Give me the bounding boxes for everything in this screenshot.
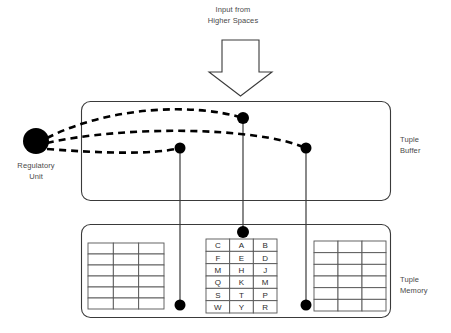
table-cell-text: Q (215, 278, 221, 287)
table-cell (139, 276, 164, 287)
table-cell-text: F (215, 254, 220, 263)
table-cell (338, 241, 362, 253)
table-cell (362, 288, 386, 300)
table-cell (88, 298, 113, 309)
table-cell-text: M (214, 266, 221, 275)
buffer-node-right[interactable] (301, 143, 312, 154)
table-cell (314, 288, 338, 300)
table-cell (338, 276, 362, 288)
table-cell (113, 265, 138, 276)
table-cell-text: D (262, 254, 268, 263)
memory-node-center[interactable] (237, 226, 249, 238)
table-cell (88, 287, 113, 298)
table-cell (113, 298, 138, 309)
table-cell (362, 276, 386, 288)
table-cell-text: R (262, 303, 268, 312)
regulatory-unit-label: Regulatory Unit (0, 160, 72, 182)
table-cell-text: Y (239, 303, 245, 312)
table-cell (362, 253, 386, 265)
diagram-canvas: CABFEDMHJQKMSTPWYR Input from Higher Spa… (0, 0, 451, 333)
table-cell (139, 298, 164, 309)
table-cell (362, 241, 386, 253)
input-source-label: Input from Higher Spaces (183, 4, 283, 26)
table-cell (314, 276, 338, 288)
regulatory-unit-node[interactable] (23, 128, 49, 154)
table-cell-text: S (215, 291, 220, 300)
table-cell-text: M (262, 278, 269, 287)
table-cell (362, 264, 386, 276)
table-cell (113, 254, 138, 265)
tuple-tables-layer: CABFEDMHJQKMSTPWYR (88, 239, 386, 313)
table-cell (139, 254, 164, 265)
input-arrow-icon (209, 40, 272, 96)
table-cell (113, 287, 138, 298)
table-cell (362, 299, 386, 311)
buffer-node-left[interactable] (175, 143, 186, 154)
table-cell (338, 288, 362, 300)
table-cell (88, 276, 113, 287)
table-cell (88, 243, 113, 254)
memory-node-right[interactable] (301, 300, 312, 311)
table-cell-text: C (215, 241, 221, 250)
table-cell (338, 299, 362, 311)
table-cell-text: T (239, 291, 244, 300)
table-cell (314, 253, 338, 265)
table-cell-text: H (239, 266, 245, 275)
tuple-memory-label: Tuple Memory (400, 274, 450, 296)
table-cell (139, 287, 164, 298)
table-cell (113, 243, 138, 254)
table-cell (139, 243, 164, 254)
table-cell-text: E (239, 254, 244, 263)
table-cell (139, 265, 164, 276)
tuple-buffer-label: Tuple Buffer (400, 134, 448, 156)
buffer-node-center[interactable] (237, 112, 249, 124)
table-cell-text: P (262, 291, 267, 300)
table-cell-text: B (262, 241, 267, 250)
right-tuple-table (314, 241, 386, 311)
table-cell-text: K (239, 278, 245, 287)
table-cell-text: J (263, 266, 267, 275)
table-cell (88, 254, 113, 265)
center-tuple-table: CABFEDMHJQKMSTPWYR (206, 239, 277, 313)
table-cell (314, 264, 338, 276)
table-cell (113, 276, 138, 287)
table-cell (88, 265, 113, 276)
memory-node-left[interactable] (175, 300, 186, 311)
table-cell (338, 253, 362, 265)
left-tuple-table (88, 243, 164, 309)
table-cell (314, 241, 338, 253)
table-cell-text: A (239, 241, 245, 250)
table-cell (338, 264, 362, 276)
table-cell-text: W (214, 303, 222, 312)
table-cell (314, 299, 338, 311)
